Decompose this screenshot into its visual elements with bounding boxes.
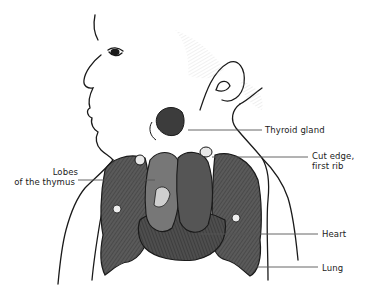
label-cut-edge-line2: first rib xyxy=(312,161,343,171)
anatomy-figure: Thyroid gland Cut edge, first rib Lobes … xyxy=(0,0,368,304)
label-lobes-line2: of the thymus xyxy=(0,177,75,187)
label-cut-edge-line1: Cut edge, xyxy=(312,151,354,161)
cut-edge-first-rib-right xyxy=(200,147,212,157)
label-thyroid-gland: Thyroid gland xyxy=(265,125,325,135)
eye-icon xyxy=(111,49,120,55)
cut-edge-first-rib-left xyxy=(135,155,145,165)
thyroid-gland xyxy=(156,108,184,136)
label-lung: Lung xyxy=(322,263,343,273)
label-lobes-line1: Lobes xyxy=(0,167,78,177)
label-heart: Heart xyxy=(322,229,346,239)
